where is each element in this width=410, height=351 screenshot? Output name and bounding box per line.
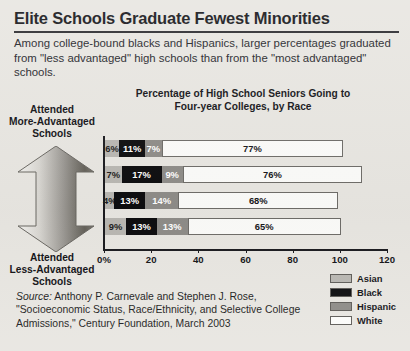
x-tick-60	[246, 249, 247, 253]
bar-segment-asian: 4%	[105, 192, 114, 209]
legend-item-hispanic: Hispanic	[330, 300, 404, 313]
bar-row: 7%17%9%76%	[105, 166, 362, 183]
legend-label-white: White	[357, 315, 383, 326]
x-tick-120	[387, 249, 388, 253]
figure-root: Elite Schools Graduate Fewest Minorities…	[0, 0, 410, 351]
bar-segment-asian: 9%	[105, 218, 126, 235]
x-tick-100	[340, 249, 341, 253]
bar-segment-black: 13%	[114, 192, 145, 209]
x-tick-label-100: 100	[332, 254, 348, 265]
bar-segment-black: 17%	[122, 166, 162, 183]
source-label: Source:	[16, 291, 52, 302]
axis-label-less-line-3: Schools	[0, 276, 108, 288]
legend-label-black: Black	[357, 287, 382, 298]
x-tick-40	[198, 249, 199, 253]
title-divider	[14, 31, 399, 33]
bar-row: 4%13%14%68%	[105, 192, 338, 209]
legend: AsianBlackHispanicWhite	[330, 272, 404, 328]
bar-segment-hispanic: 13%	[157, 218, 188, 235]
chart-title-line-2: Four-year Colleges, by Race	[108, 101, 378, 114]
bar-segment-white: 77%	[162, 140, 344, 157]
bar-segment-white: 68%	[178, 192, 338, 209]
deck-text: Among college-bound blacks and Hispanics…	[14, 36, 394, 80]
bar-segment-hispanic: 14%	[145, 192, 178, 209]
legend-item-white: White	[330, 314, 404, 327]
axis-label-less-line-2: Less-Advantaged	[0, 264, 108, 276]
x-tick-80	[293, 249, 294, 253]
x-tick-20	[151, 249, 152, 253]
plot-area: 0%20406080100120 6%11%7%77%7%17%9%76%4%1…	[103, 136, 388, 251]
axis-label-less-advantaged: Attended Less-Advantaged Schools	[0, 252, 108, 289]
axis-label-more-line-2: More-Advantaged	[0, 116, 108, 128]
page-title: Elite Schools Graduate Fewest Minorities	[14, 8, 398, 28]
x-tick-label-20: 20	[146, 254, 157, 265]
x-tick-label-0: 0%	[97, 254, 111, 265]
legend-swatch-white	[330, 316, 352, 325]
bar-segment-hispanic: 9%	[162, 166, 183, 183]
chart-title: Percentage of High School Seniors Going …	[108, 88, 378, 114]
legend-item-black: Black	[330, 286, 404, 299]
bar-segment-black: 13%	[126, 218, 157, 235]
bar-segment-asian: 7%	[105, 166, 122, 183]
source-citation: Source: Anthony P. Carnevale and Stephen…	[16, 290, 316, 330]
x-tick-label-120: 120	[379, 254, 395, 265]
bar-segment-black: 11%	[119, 140, 145, 157]
legend-label-asian: Asian	[357, 273, 383, 284]
axis-label-more-line-1: Attended	[0, 104, 108, 116]
source-text: Anthony P. Carnevale and Stephen J. Rose…	[16, 291, 300, 329]
axis-label-less-line-1: Attended	[0, 252, 108, 264]
legend-swatch-hispanic	[330, 302, 352, 311]
chart-title-line-1: Percentage of High School Seniors Going …	[108, 88, 378, 101]
x-tick-0	[104, 249, 105, 253]
bar-segment-white: 76%	[183, 166, 362, 183]
bar-segment-hispanic: 7%	[145, 140, 162, 157]
bar-row: 9%13%13%65%	[105, 218, 341, 235]
legend-swatch-black	[330, 288, 352, 297]
legend-item-asian: Asian	[330, 272, 404, 285]
double-headed-vertical-arrow-icon	[16, 146, 96, 252]
legend-label-hispanic: Hispanic	[357, 301, 396, 312]
x-tick-label-60: 60	[240, 254, 251, 265]
bar-row: 6%11%7%77%	[105, 140, 343, 157]
axis-label-more-line-3: Schools	[0, 128, 108, 140]
bar-segment-asian: 6%	[105, 140, 119, 157]
axis-label-more-advantaged: Attended More-Advantaged Schools	[0, 104, 108, 141]
legend-swatch-asian	[330, 274, 352, 283]
bar-segment-white: 65%	[188, 218, 341, 235]
x-tick-label-80: 80	[287, 254, 298, 265]
x-tick-label-40: 40	[193, 254, 204, 265]
